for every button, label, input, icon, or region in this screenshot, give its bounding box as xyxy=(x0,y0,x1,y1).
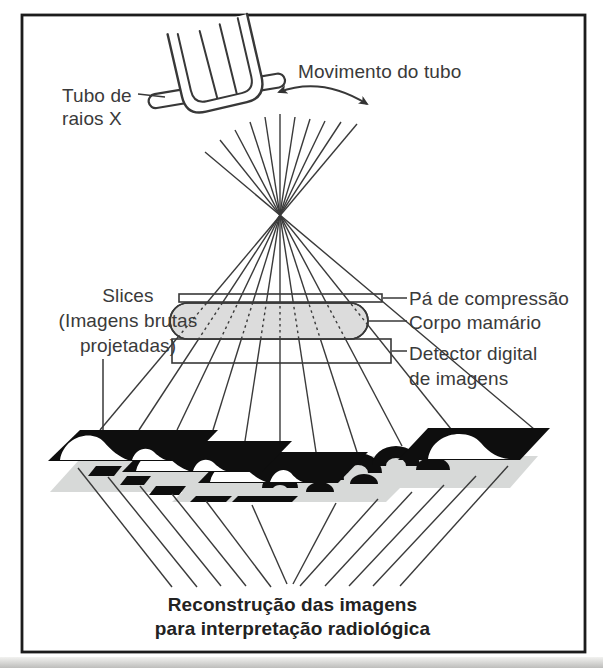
detector-label: Detector digital de imagens xyxy=(409,341,537,391)
tube-label: Tubo de raios X xyxy=(62,84,132,130)
caption-line1: Reconstrução das imagens xyxy=(120,593,465,617)
caption-line2: para interpretação radiológica xyxy=(120,617,465,641)
slice-stack-graphic xyxy=(48,428,550,502)
slices-label-line2: (Imagens brutas xyxy=(33,308,223,333)
slices-label-line3: projetadas) xyxy=(33,333,223,358)
detector-label-line2: de imagens xyxy=(409,366,537,391)
figure-caption: Reconstrução das imagens para interpreta… xyxy=(120,593,465,641)
x-ray-tube-icon xyxy=(167,14,266,116)
page-edge-shadow xyxy=(0,657,603,668)
tube-label-line2: raios X xyxy=(62,107,132,130)
tube-label-line1: Tubo de xyxy=(62,84,132,107)
breast-label: Corpo mamário xyxy=(409,311,541,334)
leader-lines xyxy=(103,94,407,436)
movement-label: Movimento do tubo xyxy=(298,60,461,83)
tomosynthesis-figure: Tubo de raios X Movimento do tubo Slices… xyxy=(0,0,603,668)
slices-label-line1: Slices xyxy=(33,283,223,308)
slices-label: Slices (Imagens brutas projetadas) xyxy=(33,283,223,358)
detector-label-line1: Detector digital xyxy=(409,341,537,366)
motion-arrow-icon xyxy=(279,86,367,104)
paddle-label: Pá de compressão xyxy=(409,287,569,310)
